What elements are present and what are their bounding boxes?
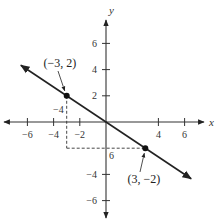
x-tick-label: −6 bbox=[22, 129, 33, 140]
y-tick-label: −6 bbox=[86, 195, 97, 206]
y-axis-label: y bbox=[108, 4, 114, 16]
data-point bbox=[64, 93, 70, 99]
y-tick-label: 2 bbox=[92, 90, 97, 101]
x-tick-label: 6 bbox=[182, 129, 187, 140]
pointer-arrow bbox=[140, 153, 144, 172]
y-tick-label: 4 bbox=[92, 64, 97, 75]
x-tick-label: 4 bbox=[156, 129, 161, 140]
extra-label: 6 bbox=[109, 150, 114, 161]
labels: (−3, 2)(3, −2) bbox=[44, 56, 161, 186]
point-label: (3, −2) bbox=[128, 172, 161, 186]
point-label: (−3, 2) bbox=[44, 56, 77, 70]
pointer-arrow bbox=[58, 71, 65, 91]
y-tick-label: 6 bbox=[92, 38, 97, 49]
extra-label: −4 bbox=[53, 104, 64, 115]
data-point bbox=[142, 145, 148, 151]
coordinate-plot: xy −6−4−246642−4−6−46 (−3, 2)(3, −2) bbox=[0, 0, 216, 220]
x-axis-label: x bbox=[208, 116, 214, 128]
x-tick-label: −4 bbox=[48, 129, 59, 140]
y-tick-label: −4 bbox=[86, 169, 97, 180]
axes: xy bbox=[4, 4, 214, 218]
x-tick-label: −2 bbox=[74, 129, 85, 140]
